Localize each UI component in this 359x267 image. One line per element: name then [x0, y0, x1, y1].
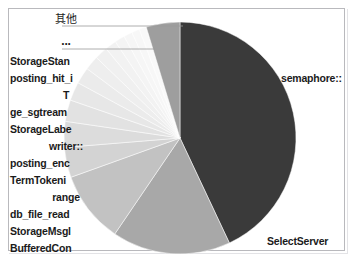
- pie-label-t: T: [10, 90, 122, 101]
- pie-label-storage-stan: StorageStan: [10, 56, 122, 67]
- pie-label-term-tokeni: TermTokeni: [10, 175, 122, 186]
- left-label-column: 其他 ... StorageStan posting_hit_i T ge_sg…: [10, 14, 122, 250]
- pie-label-posting-hit-i: posting_hit_i: [10, 73, 122, 84]
- pie-label-writer: writer::: [10, 141, 122, 152]
- pie-label-other: 其他: [10, 14, 122, 25]
- pie-label-posting-enc: posting_enc: [10, 158, 122, 169]
- pie-label-ellipsis: ...: [10, 36, 122, 47]
- pie-label-select-server: SelectServer: [267, 236, 328, 247]
- pie-chart-screenshot: 其他 ... StorageStan posting_hit_i T ge_sg…: [0, 0, 359, 267]
- pie-label-db-file-read: db_file_read: [10, 209, 122, 220]
- pie-label-storage-msgl: StorageMsgl: [10, 226, 122, 237]
- pie-label-buffered-con: BufferedCon: [10, 243, 122, 254]
- pie-label-range: range: [10, 192, 122, 203]
- pie-label-storage-labe: StorageLabe: [10, 124, 122, 135]
- pie-label-ge-sgtream: ge_sgtream: [10, 107, 122, 118]
- pie-label-semaphore: semaphore::: [281, 73, 342, 84]
